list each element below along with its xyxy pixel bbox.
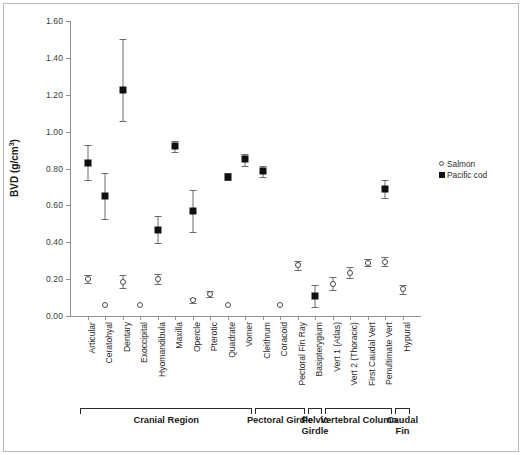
x-tick-label: Basipterygium	[314, 322, 324, 376]
x-tick-mark	[333, 316, 334, 320]
x-tick-label: Vomer	[244, 322, 254, 347]
error-bar-cap-lower	[84, 180, 91, 181]
marker-pacific-cod	[154, 227, 161, 234]
x-tick-mark	[403, 316, 404, 320]
error-bar-cap-upper	[329, 277, 336, 278]
error-bar-cap-upper	[119, 39, 126, 40]
legend-item: Pacific cod	[436, 169, 487, 180]
x-tick-mark	[193, 316, 194, 320]
marker-salmon	[155, 276, 161, 282]
error-bar-cap-lower	[154, 243, 161, 244]
error-bar-cap-lower	[329, 290, 336, 291]
y-tick-mark	[66, 205, 70, 206]
error-bar-cap-upper	[312, 285, 319, 286]
y-tick-label: 1.20	[46, 90, 63, 100]
error-bar-cap-upper	[154, 274, 161, 275]
y-tick-mark	[66, 169, 70, 170]
marker-salmon	[400, 286, 406, 292]
x-tick-mark	[228, 316, 229, 320]
x-tick-label: Penultimate Vert	[384, 322, 394, 385]
marker-salmon	[330, 281, 336, 287]
error-bar-cap-lower	[399, 294, 406, 295]
x-tick-mark	[368, 316, 369, 320]
chart-legend: SalmonPacific cod	[436, 158, 487, 180]
error-bar-line	[122, 39, 123, 120]
y-tick-label: 0.20	[46, 274, 63, 284]
error-bar-cap-lower	[154, 284, 161, 285]
marker-pacific-cod	[119, 87, 126, 94]
x-tick-mark	[158, 316, 159, 320]
error-bar-cap-lower	[119, 121, 126, 122]
x-tick-label: Vert 2 (Thoracic)	[349, 322, 359, 386]
x-tick-label: Pterotic	[209, 322, 219, 351]
marker-salmon	[365, 260, 371, 266]
error-bar-cap-lower	[119, 288, 126, 289]
plot-area	[70, 21, 420, 316]
error-bar-cap-lower	[259, 177, 266, 178]
error-bar-cap-upper	[259, 166, 266, 167]
error-bar-cap-upper	[242, 154, 249, 155]
marker-salmon	[207, 291, 213, 297]
y-tick-mark	[66, 21, 70, 22]
open-circle-icon	[439, 161, 444, 166]
region-bracket	[255, 408, 305, 414]
x-tick-mark	[245, 316, 246, 320]
marker-salmon	[102, 302, 108, 308]
y-tick-mark	[66, 242, 70, 243]
x-tick-mark	[280, 316, 281, 320]
error-bar-cap-upper	[172, 141, 179, 142]
legend-symbol	[436, 172, 447, 178]
x-tick-label: First Caudal Vert	[367, 322, 377, 386]
x-tick-label: Hypural	[402, 322, 412, 352]
error-bar-cap-lower	[294, 270, 301, 271]
marker-salmon	[190, 297, 196, 303]
region-label: Cranial Region	[68, 415, 264, 426]
filled-square-icon	[439, 172, 445, 178]
x-tick-mark	[140, 316, 141, 320]
error-bar-cap-lower	[382, 266, 389, 267]
y-tick-label: 0.00	[46, 311, 63, 321]
marker-salmon	[382, 259, 388, 265]
error-bar-cap-upper	[84, 145, 91, 146]
error-bar-cap-upper	[189, 190, 196, 191]
x-tick-label: Ceratohyal	[104, 322, 114, 364]
legend-label: Salmon	[447, 159, 475, 169]
x-tick-label: Articular	[87, 322, 97, 354]
region-bracket	[325, 408, 392, 414]
error-bar-cap-lower	[84, 283, 91, 284]
marker-pacific-cod	[242, 156, 249, 163]
error-bar-cap-lower	[312, 307, 319, 308]
region-label: Caudal Fin	[383, 415, 422, 437]
x-tick-label: Exoccipital	[139, 322, 149, 363]
error-bar-cap-upper	[119, 275, 126, 276]
marker-pacific-cod	[382, 185, 389, 192]
x-tick-mark	[315, 316, 316, 320]
marker-salmon	[85, 276, 91, 282]
x-tick-label: Vert 1 (Atlas)	[332, 322, 342, 372]
x-tick-mark	[350, 316, 351, 320]
error-bar-cap-lower	[172, 152, 179, 153]
x-tick-mark	[123, 316, 124, 320]
x-tick-mark	[385, 316, 386, 320]
error-bar-cap-lower	[347, 278, 354, 279]
y-tick-label: 0.40	[46, 237, 63, 247]
y-tick-mark	[66, 279, 70, 280]
marker-pacific-cod	[224, 173, 231, 180]
y-tick-label: 0.80	[46, 164, 63, 174]
y-tick-mark	[66, 316, 70, 317]
error-bar-cap-upper	[347, 267, 354, 268]
y-tick-mark	[66, 132, 70, 133]
y-tick-label: 1.60	[46, 16, 63, 26]
marker-salmon	[225, 302, 231, 308]
y-axis-title-text: BVD (g/cm3)	[9, 139, 20, 197]
error-bar-cap-upper	[382, 180, 389, 181]
marker-salmon	[277, 302, 283, 308]
error-bar-cap-lower	[224, 180, 231, 181]
marker-salmon	[137, 302, 143, 308]
marker-pacific-cod	[172, 143, 179, 150]
y-tick-mark	[66, 95, 70, 96]
marker-salmon	[347, 270, 353, 276]
error-bar-cap-upper	[154, 216, 161, 217]
marker-salmon	[295, 262, 301, 268]
legend-item: Salmon	[436, 158, 487, 169]
